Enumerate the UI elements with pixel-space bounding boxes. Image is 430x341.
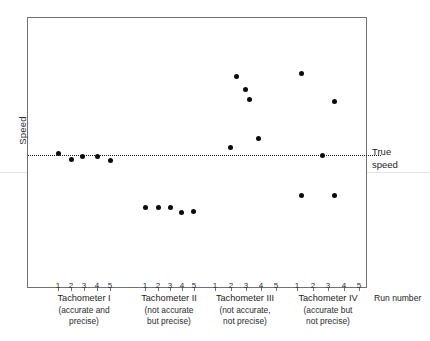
run-number-label: 2 <box>226 281 236 290</box>
tachometer-accuracy-precision-chart: Speed True speed 12345123451234512345 Ta… <box>0 0 430 341</box>
data-point-tach1-run3 <box>80 154 85 159</box>
data-point-tach4-run4 <box>332 193 337 198</box>
run-number-label: 3 <box>323 281 333 290</box>
data-point-tach1-run4 <box>95 154 100 159</box>
run-number-label: 3 <box>241 281 251 290</box>
data-point-tach3-run4 <box>247 97 252 102</box>
run-number-label: 4 <box>92 281 102 290</box>
plot-area-frame <box>27 17 367 288</box>
data-point-tach4-run5 <box>332 99 337 104</box>
data-point-tach2-run5 <box>191 209 196 214</box>
group-title: Tachometer IV <box>272 293 384 305</box>
group-subtitle-line2: not precise) <box>272 316 384 327</box>
data-point-tach3-run2 <box>234 74 239 79</box>
data-point-tach3-run3 <box>243 87 248 92</box>
run-number-label: 5 <box>105 281 115 290</box>
run-number-label: 2 <box>66 281 76 290</box>
data-point-tach3-run5 <box>256 136 261 141</box>
run-number-label: 5 <box>354 281 364 290</box>
group-caption-4: Tachometer IV(accurate butnot precise) <box>272 293 384 327</box>
run-number-label: 1 <box>210 281 220 290</box>
data-point-tach3-run1 <box>228 145 233 150</box>
group-subtitle-line1: (accurate but <box>272 305 384 316</box>
data-point-tach1-run2 <box>69 157 74 162</box>
true-speed-line1: True <box>372 146 391 157</box>
data-point-tach4-run3 <box>320 153 325 158</box>
run-number-label: 5 <box>271 281 281 290</box>
data-point-tach1-run5 <box>108 158 113 163</box>
data-point-tach2-run3 <box>168 205 173 210</box>
data-point-tach2-run1 <box>143 205 148 210</box>
run-number-label: 4 <box>177 281 187 290</box>
run-number-label: 4 <box>256 281 266 290</box>
y-axis-label: Speed <box>17 101 28 161</box>
true-speed-line2: speed <box>372 159 398 170</box>
run-number-label: 2 <box>308 281 318 290</box>
x-axis-label: Run number <box>374 293 421 303</box>
run-number-label: 1 <box>140 281 150 290</box>
true-speed-annotation: True speed <box>372 146 398 171</box>
run-number-label: 1 <box>53 281 63 290</box>
run-number-label: 5 <box>189 281 199 290</box>
data-point-tach1-run1 <box>56 151 61 156</box>
data-point-tach2-run4 <box>179 210 184 215</box>
run-number-label: 1 <box>292 281 302 290</box>
data-point-tach4-run1 <box>299 71 304 76</box>
data-point-tach2-run2 <box>156 205 161 210</box>
data-point-tach4-run2 <box>299 193 304 198</box>
run-number-label: 3 <box>79 281 89 290</box>
run-number-label: 3 <box>165 281 175 290</box>
run-number-label: 4 <box>339 281 349 290</box>
run-number-label: 2 <box>153 281 163 290</box>
